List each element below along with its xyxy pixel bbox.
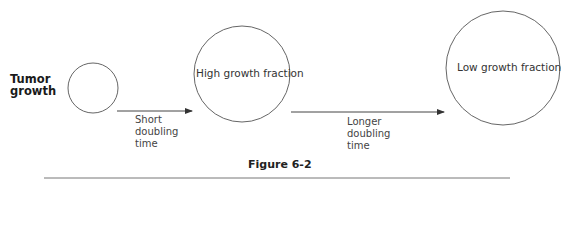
figure-caption: Figure 6-2: [248, 158, 312, 171]
low-growth-fraction-label: Low growth fraction: [457, 61, 561, 73]
step-label-line: doubling: [135, 126, 178, 138]
step-label-line: Longer: [347, 116, 390, 128]
step-label-line: doubling: [347, 128, 390, 140]
step-label-line: time: [347, 140, 390, 152]
row-label-line-2: growth: [10, 85, 56, 97]
short-doubling-time-label: Short doubling time: [135, 114, 178, 150]
high-growth-fraction-label: High growth fraction: [196, 67, 304, 79]
tumor-growth-label: Tumor growth: [10, 73, 56, 97]
step-label-line: Short: [135, 114, 178, 126]
small-tumor-circle: [68, 63, 118, 113]
longer-doubling-time-label: Longer doubling time: [347, 116, 390, 152]
step-label-line: time: [135, 138, 178, 150]
